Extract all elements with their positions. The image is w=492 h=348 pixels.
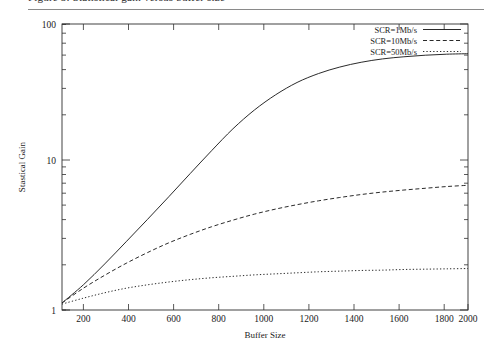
plot-frame <box>62 24 468 310</box>
y-axis-ticks <box>62 24 468 310</box>
x-tick-label: 2000 <box>459 314 478 324</box>
x-tick-label: 1400 <box>345 314 364 324</box>
y-tick-label: 1 <box>51 306 56 316</box>
horizontal-rule <box>28 9 484 10</box>
series-line-scr-50mbs <box>62 269 468 305</box>
x-tick-label: 1800 <box>435 314 454 324</box>
y-tick-labels: 100 10 1 <box>42 20 57 316</box>
series-paths <box>62 54 468 304</box>
cutoff-caption-text: Figure 5: Statistical gain versus buffer… <box>28 0 225 3</box>
x-tick-label: 1200 <box>299 314 318 324</box>
legend-label-scr-10mbs: SCR=10Mb/s <box>370 36 417 46</box>
x-tick-label: 1600 <box>390 314 409 324</box>
chart-svg: 100 10 1 200 400 600 800 1000 1200 1400 … <box>0 0 492 348</box>
figure-container: Figure 5: Statistical gain versus buffer… <box>0 0 492 348</box>
x-tick-label: 600 <box>166 314 181 324</box>
x-tick-label: 200 <box>76 314 91 324</box>
x-axis-title: Buffer Size <box>244 330 285 340</box>
series-line-scr-1mbs <box>62 54 468 303</box>
x-tick-labels: 200 400 600 800 1000 1200 1400 1600 1800… <box>76 314 477 324</box>
y-tick-label: 100 <box>42 20 57 30</box>
x-tick-label: 1000 <box>254 314 273 324</box>
x-axis-ticks <box>83 24 468 310</box>
y-tick-label: 10 <box>47 156 57 166</box>
x-tick-label: 400 <box>121 314 136 324</box>
y-axis-title: Stastical Gain <box>17 141 27 192</box>
legend: SCR=1Mb/s SCR=10Mb/s SCR=50Mb/s <box>370 25 461 57</box>
cutoff-caption-band: Figure 5: Statistical gain versus buffer… <box>28 0 484 9</box>
legend-label-scr-1mbs: SCR=1Mb/s <box>374 25 417 35</box>
x-tick-label: 800 <box>212 314 227 324</box>
series-line-scr-10mbs <box>62 185 468 303</box>
legend-label-scr-50mbs: SCR=50Mb/s <box>370 47 417 57</box>
